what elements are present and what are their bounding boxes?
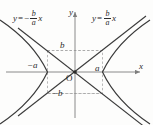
equation-right-variable: x [112, 14, 116, 23]
equation-right-numerator: b [105, 10, 111, 18]
equation-label-left-asymptote: y = − b a x [13, 10, 42, 27]
equation-right-lhs: y [92, 14, 96, 23]
asymptote-negative [18, 28, 146, 125]
equation-label-right-asymptote: y = b a x [92, 10, 116, 27]
x-tick-label-a: a [95, 64, 100, 73]
hyperbola-figure: y = − b a x y = b a x y x O a −a b −b [0, 0, 153, 125]
equation-left-lhs: y [13, 14, 17, 23]
y-tick-label-b: b [60, 41, 65, 50]
equation-left-fraction: b a [30, 10, 37, 27]
y-tick-label-negative-b: −b [52, 89, 63, 98]
equation-left-variable: x [38, 14, 42, 23]
equation-left-equals: = [18, 14, 23, 23]
x-tick-label-negative-a: −a [27, 61, 38, 70]
origin-label: O [66, 74, 73, 83]
equation-left-denominator: a [31, 19, 37, 27]
equation-right-denominator: a [105, 19, 111, 27]
equation-right-fraction: b a [104, 10, 111, 27]
equation-left-numerator: b [31, 10, 37, 18]
x-axis-label: x [139, 62, 143, 71]
equation-left-sign: − [24, 14, 29, 23]
origin-point [73, 70, 77, 74]
asymptotes [18, 16, 146, 125]
equation-right-equals: = [97, 14, 102, 23]
y-axis-label: y [69, 8, 73, 17]
